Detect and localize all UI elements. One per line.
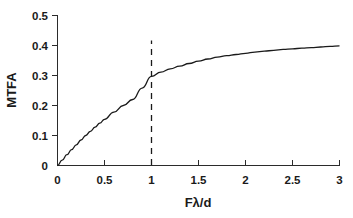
x-tick-label-1.5: 1.5 xyxy=(191,174,208,186)
axes xyxy=(57,15,340,166)
y-axis-ticks xyxy=(52,16,58,136)
mtfa-curve xyxy=(58,46,340,166)
mtfa-vs-fld-line-chart: 0.5 0.4 0.3 0.2 0.1 0 0 0.5 1 1.5 2 2.5 … xyxy=(0,0,353,218)
x-tick-label-2.5: 2.5 xyxy=(285,174,302,186)
x-tick-label-0: 0 xyxy=(54,174,60,186)
y-tick-label-0: 0 xyxy=(42,160,48,172)
y-tick-label-0.4: 0.4 xyxy=(32,40,49,52)
x-axis-ticks xyxy=(105,160,340,166)
x-axis-title: Fλ/d xyxy=(185,195,212,210)
y-tick-label-0.5: 0.5 xyxy=(32,10,49,22)
x-tick-label-1: 1 xyxy=(148,174,155,186)
x-tick-label-3: 3 xyxy=(336,174,342,186)
y-tick-label-0.2: 0.2 xyxy=(32,100,48,112)
y-tick-label-0.3: 0.3 xyxy=(32,70,48,82)
x-axis-tick-labels: 0 0.5 1 1.5 2 2.5 3 xyxy=(54,174,342,186)
y-axis-title: MTFA xyxy=(4,72,19,108)
x-tick-label-0.5: 0.5 xyxy=(97,174,114,186)
y-axis-tick-labels: 0.5 0.4 0.3 0.2 0.1 0 xyxy=(32,10,49,172)
x-tick-label-2: 2 xyxy=(242,174,248,186)
y-tick-label-0.1: 0.1 xyxy=(32,130,49,142)
chart-figure: 0.5 0.4 0.3 0.2 0.1 0 0 0.5 1 1.5 2 2.5 … xyxy=(0,0,353,218)
